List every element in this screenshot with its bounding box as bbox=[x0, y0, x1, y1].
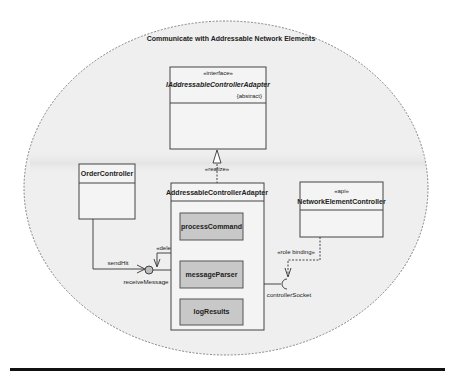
send-hit-label: sendHit bbox=[108, 259, 129, 266]
part-log-results[interactable]: logResults bbox=[180, 299, 243, 325]
network-element-controller-box[interactable]: «api» NetworkElementController bbox=[297, 182, 386, 237]
order-controller-box[interactable]: OrderController bbox=[79, 164, 135, 219]
part-process-command[interactable]: processCommand bbox=[180, 213, 243, 240]
uml-component-diagram: Communicate with Addressable Network Ele… bbox=[0, 0, 453, 377]
order-controller-name: OrderController bbox=[81, 170, 134, 177]
receive-message-label: receiveMessage bbox=[123, 278, 169, 285]
interface-stereotype: «interface» bbox=[203, 70, 233, 76]
part-message-parser[interactable]: messageParser bbox=[180, 261, 243, 288]
message-parser-label: messageParser bbox=[186, 271, 238, 279]
controller-socket-label: controllerSocket bbox=[267, 291, 312, 298]
diagram-title: Communicate with Addressable Network Ele… bbox=[147, 35, 316, 42]
interface-modifier: {abstract} bbox=[237, 93, 262, 99]
network-controller-name: NetworkElementController bbox=[297, 198, 386, 205]
interface-box[interactable]: «interface» IAddressableControllerAdapte… bbox=[166, 67, 271, 149]
bottom-rule bbox=[10, 368, 445, 371]
adapter-name: AddressableControllerAdapter bbox=[166, 189, 268, 197]
log-results-label: logResults bbox=[194, 308, 230, 316]
process-command-label: processCommand bbox=[181, 223, 242, 231]
role-binding-label: «role binding» bbox=[277, 249, 315, 255]
network-controller-stereotype: «api» bbox=[334, 188, 349, 194]
realize-label: «realize» bbox=[205, 166, 230, 172]
interface-name: IAddressableControllerAdapter bbox=[166, 81, 271, 89]
